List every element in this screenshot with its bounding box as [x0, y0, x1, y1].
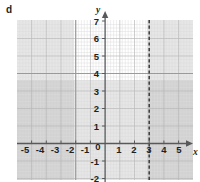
x-tick-label: 3 [146, 144, 151, 155]
y-tick-label: 7 [94, 16, 99, 27]
part-label: d [6, 4, 12, 15]
x-axis-label: x [192, 147, 198, 157]
x-tick-label: 2 [131, 144, 136, 155]
x-tick-label: -5 [21, 144, 30, 155]
x-tick-label: 5 [176, 144, 182, 155]
coordinate-plane-svg: -5 -4 -3 -2 -1 0 1 2 3 4 5 7 6 5 4 3 2 1… [0, 0, 200, 182]
x-tick-label: -2 [66, 144, 74, 155]
x-tick-label-zero: 0 [95, 141, 100, 152]
inequality-graph-figure: d [0, 0, 200, 182]
y-tick-label: 1 [94, 121, 100, 132]
x-tick-label: 4 [161, 144, 167, 155]
x-tick-label: -3 [51, 144, 59, 155]
y-axis-arrow [102, 11, 108, 18]
x-tick-label: -1 [81, 144, 90, 155]
y-tick-label: 6 [94, 33, 99, 44]
y-tick-label: -2 [91, 173, 99, 182]
y-tick-label: 4 [94, 68, 100, 79]
x-tick-label: 1 [116, 144, 122, 155]
y-tick-label: 3 [94, 86, 99, 97]
y-tick-label: -1 [91, 156, 100, 167]
y-tick-label: 2 [94, 103, 99, 114]
y-tick-label: 5 [94, 51, 100, 62]
y-axis-label: y [95, 5, 101, 15]
x-tick-label: -4 [36, 144, 45, 155]
region-x-gt-3 [147, 20, 193, 180]
